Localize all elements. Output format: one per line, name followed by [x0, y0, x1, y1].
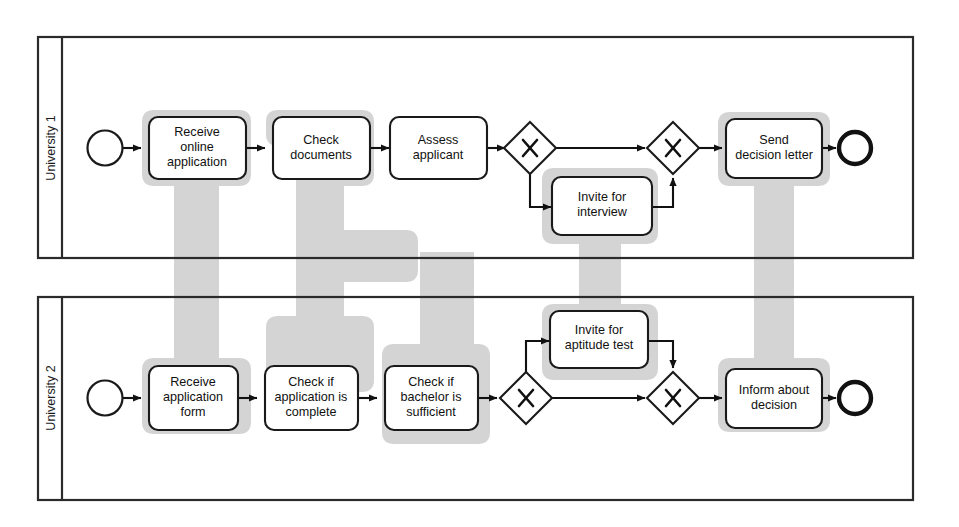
lane1-end-event[interactable]	[839, 132, 871, 164]
task-assess-applicant[interactable]: Assess applicant	[390, 117, 487, 179]
bpmn-diagram-canvas: University 1 University 2 Receive online	[0, 0, 959, 527]
lane-label-university-2: University 2	[44, 365, 58, 430]
task-label-line: sufficient	[406, 405, 456, 419]
task-label-line: online	[180, 140, 214, 154]
task-label-line: decision letter	[735, 148, 813, 162]
task-label-line: bachelor is	[401, 390, 462, 404]
task-label-line: Inform about	[739, 383, 810, 397]
task-label-line: Check	[303, 133, 339, 147]
task-label-line: decision	[751, 398, 797, 412]
lane-label-university-1: University 1	[44, 115, 58, 180]
task-label-line: application	[163, 390, 223, 404]
lane2-gateway-split[interactable]	[500, 372, 552, 424]
task-label-line: Send	[759, 133, 788, 147]
task-label-line: documents	[290, 148, 352, 162]
task-check-documents[interactable]: Check documents	[273, 117, 370, 179]
task-label-line: interview	[577, 205, 628, 219]
task-label-line: Invite for	[575, 323, 623, 337]
task-inform-about-decision[interactable]: Inform about decision	[726, 369, 822, 428]
task-label-line: Invite for	[578, 190, 626, 204]
task-label-line: application is	[275, 390, 348, 404]
task-send-decision-letter[interactable]: Send decision letter	[726, 119, 822, 178]
task-label-line: application	[167, 155, 227, 169]
diagram-svg: University 1 University 2 Receive online	[0, 0, 959, 527]
task-label-line: Assess	[418, 133, 459, 147]
task-receive-online-application[interactable]: Receive online application	[149, 117, 246, 179]
task-label-line: Check if	[288, 375, 334, 389]
task-label-line: Receive	[174, 125, 220, 139]
lane2-start-event[interactable]	[88, 381, 123, 416]
task-label-line: complete	[285, 405, 336, 419]
lane1-gateway-join[interactable]	[647, 122, 699, 174]
lane2-gateway-join[interactable]	[647, 372, 699, 424]
task-label-line: Check if	[408, 375, 454, 389]
task-receive-application-form[interactable]: Receive application form	[149, 366, 238, 430]
task-label-line: Receive	[170, 375, 216, 389]
task-label-line: form	[180, 405, 205, 419]
task-label-line: applicant	[413, 148, 464, 162]
task-check-if-application-is-complete[interactable]: Check if application is complete	[265, 366, 358, 430]
lane1-start-event[interactable]	[88, 131, 123, 166]
lane2-end-event[interactable]	[839, 382, 871, 414]
task-invite-for-interview[interactable]: Invite for interview	[552, 177, 652, 235]
task-check-if-bachelor-is-sufficient[interactable]: Check if bachelor is sufficient	[385, 366, 478, 430]
lane1-gateway-split[interactable]	[504, 122, 556, 174]
task-invite-for-aptitude-test[interactable]: Invite for aptitude test	[550, 311, 648, 368]
task-label-line: aptitude test	[565, 338, 634, 352]
